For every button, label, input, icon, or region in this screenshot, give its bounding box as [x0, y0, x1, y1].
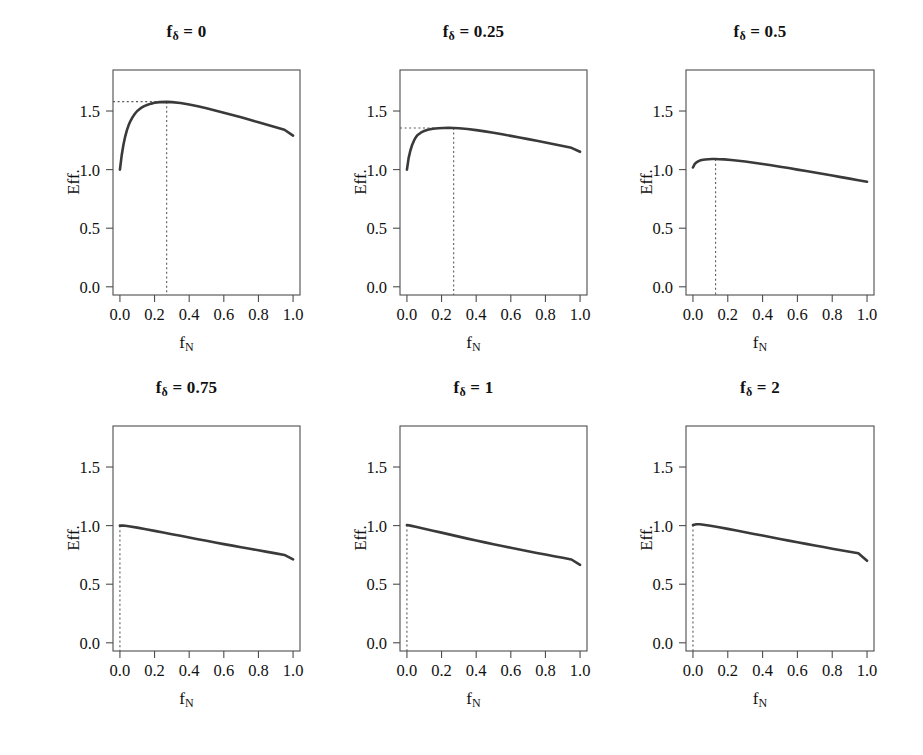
y-tick-label: 1.5 — [652, 458, 673, 477]
y-tick-label: 0.0 — [79, 634, 100, 653]
x-axis-title: fN — [38, 689, 335, 711]
y-tick-label: 1.5 — [79, 458, 100, 477]
data-curve — [693, 159, 867, 182]
x-tick-label: 0.8 — [822, 661, 843, 680]
x-tick-label: 0.8 — [535, 305, 556, 324]
x-axis-title: fN — [611, 689, 909, 711]
x-tick-label: 1.0 — [283, 661, 304, 680]
y-tick-label: 0.5 — [366, 575, 387, 594]
y-tick-label: 1.5 — [79, 102, 100, 121]
x-tick-label: 0.4 — [179, 305, 200, 324]
x-axis-subscript: N — [185, 696, 194, 710]
x-tick-label: 0.4 — [752, 305, 773, 324]
y-tick-label: 0.0 — [79, 278, 100, 297]
x-axis-title: fN — [611, 333, 909, 355]
y-tick-label: 1.5 — [366, 102, 387, 121]
x-tick-label: 0.0 — [397, 661, 418, 680]
y-tick-label: 1.5 — [366, 458, 387, 477]
data-curve — [407, 128, 580, 170]
x-tick-label: 1.0 — [857, 305, 878, 324]
y-tick-label: 1.5 — [652, 102, 673, 121]
plot-frame — [113, 70, 300, 295]
figure-panel-grid: fδ = 00.00.20.40.60.81.00.00.51.01.5fNEf… — [0, 0, 923, 755]
x-tick-label: 0.0 — [683, 305, 704, 324]
x-tick-label: 0.4 — [179, 661, 200, 680]
x-tick-label: 0.6 — [214, 661, 235, 680]
x-tick-label: 0.0 — [397, 305, 418, 324]
data-curve — [120, 102, 293, 170]
y-tick-label: 0.0 — [366, 278, 387, 297]
x-tick-label: 0.4 — [752, 661, 773, 680]
x-tick-label: 0.8 — [535, 661, 556, 680]
x-axis-subscript: N — [759, 340, 768, 354]
plot-frame — [400, 426, 587, 651]
y-axis-title: Eff. — [637, 142, 657, 222]
y-tick-label: 0.5 — [366, 219, 387, 238]
chart-panel: fδ = 0.50.00.20.40.60.81.00.00.51.01.5fN… — [611, 22, 909, 365]
y-tick-label: 0.5 — [652, 219, 673, 238]
x-tick-label: 1.0 — [857, 661, 878, 680]
chart-panel: fδ = 00.00.20.40.60.81.00.00.51.01.5fNEf… — [38, 22, 335, 365]
plot-frame — [400, 70, 587, 295]
data-curve — [120, 525, 293, 559]
x-tick-label: 0.2 — [431, 661, 452, 680]
x-tick-label: 0.6 — [787, 305, 808, 324]
x-tick-label: 1.0 — [283, 305, 304, 324]
chart-panel: fδ = 0.250.00.20.40.60.81.00.00.51.01.5f… — [325, 22, 622, 365]
x-axis-title: fN — [325, 689, 622, 711]
x-tick-label: 0.2 — [144, 661, 165, 680]
x-tick-label: 0.6 — [214, 305, 235, 324]
x-tick-label: 0.6 — [501, 661, 522, 680]
x-tick-label: 1.0 — [570, 305, 591, 324]
x-tick-label: 0.0 — [110, 305, 131, 324]
y-tick-label: 0.0 — [652, 278, 673, 297]
y-axis-title: Eff. — [64, 498, 84, 578]
y-tick-label: 0.0 — [366, 634, 387, 653]
x-tick-label: 0.6 — [501, 305, 522, 324]
x-axis-subscript: N — [472, 696, 481, 710]
data-curve — [693, 524, 867, 561]
x-axis-title: fN — [38, 333, 335, 355]
x-tick-label: 0.2 — [144, 305, 165, 324]
x-tick-label: 0.2 — [431, 305, 452, 324]
y-tick-label: 0.5 — [652, 575, 673, 594]
x-axis-title: fN — [325, 333, 622, 355]
x-tick-label: 0.8 — [248, 305, 269, 324]
x-tick-label: 0.8 — [822, 305, 843, 324]
y-axis-title: Eff. — [637, 498, 657, 578]
x-tick-label: 1.0 — [570, 661, 591, 680]
x-axis-subscript: N — [472, 340, 481, 354]
x-tick-label: 0.0 — [110, 661, 131, 680]
chart-panel: fδ = 0.750.00.20.40.60.81.00.00.51.01.5f… — [38, 378, 335, 721]
x-axis-subscript: N — [759, 696, 768, 710]
y-tick-label: 0.5 — [79, 575, 100, 594]
chart-panel: fδ = 10.00.20.40.60.81.00.00.51.01.5fNEf… — [325, 378, 622, 721]
chart-panel: fδ = 20.00.20.40.60.81.00.00.51.01.5fNEf… — [611, 378, 909, 721]
x-tick-label: 0.4 — [466, 305, 487, 324]
y-axis-title: Eff. — [64, 142, 84, 222]
data-curve — [407, 525, 580, 565]
x-tick-label: 0.6 — [787, 661, 808, 680]
x-axis-subscript: N — [185, 340, 194, 354]
x-tick-label: 0.4 — [466, 661, 487, 680]
y-tick-label: 0.0 — [652, 634, 673, 653]
y-axis-title: Eff. — [351, 142, 371, 222]
x-tick-label: 0.2 — [717, 661, 738, 680]
y-axis-title: Eff. — [351, 498, 371, 578]
x-tick-label: 0.8 — [248, 661, 269, 680]
plot-frame — [686, 70, 874, 295]
x-tick-label: 0.0 — [683, 661, 704, 680]
y-tick-label: 0.5 — [79, 219, 100, 238]
x-tick-label: 0.2 — [717, 305, 738, 324]
plot-frame — [113, 426, 300, 651]
